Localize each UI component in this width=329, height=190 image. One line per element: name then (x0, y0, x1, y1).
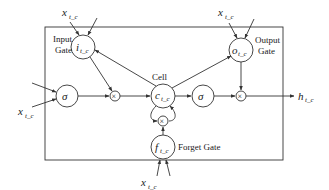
input-multiply-node: × (110, 91, 120, 101)
lstm-diagram: i t_c Input Gate o t_c Output Gate σ × c… (0, 0, 329, 190)
output-sigma-node: σ (192, 85, 214, 107)
svg-text:×: × (238, 92, 243, 101)
svg-text:t_c: t_c (305, 96, 314, 104)
input-gate-label: Input (53, 34, 72, 44)
input-gate-node: i t_c (71, 35, 95, 59)
svg-text:x: x (17, 105, 23, 117)
svg-text:σ: σ (198, 90, 204, 102)
cell-state-node: c t_c (151, 84, 175, 108)
svg-text:x: x (217, 6, 223, 18)
svg-text:i: i (76, 41, 79, 53)
output-gate-label-2: Gate (258, 46, 275, 56)
svg-text:t_c: t_c (161, 95, 170, 103)
output-multiply-node: × (236, 91, 246, 101)
svg-text:σ: σ (62, 90, 68, 102)
cell-label: Cell (152, 72, 167, 82)
svg-text:t_c: t_c (225, 13, 234, 21)
svg-text:c: c (155, 89, 160, 101)
input-gate-label-2: Gate (55, 45, 72, 55)
svg-text:t_c: t_c (80, 47, 89, 55)
svg-text:h: h (298, 90, 304, 102)
input-label-top-left: x t_c (61, 6, 78, 21)
input-label-left: x t_c (17, 105, 34, 120)
svg-text:t_c: t_c (148, 183, 157, 190)
input-sigma-node: σ (56, 85, 78, 107)
input-label-top-right: x t_c (217, 6, 234, 21)
output-gate-label: Output (255, 35, 281, 45)
output-gate-node: o t_c (229, 38, 253, 62)
output-label-h: h t_c (298, 90, 314, 104)
svg-text:t_c: t_c (238, 50, 247, 58)
svg-text:×: × (112, 92, 117, 101)
svg-text:×: × (160, 117, 165, 126)
forget-gate-label: Forget Gate (178, 142, 221, 152)
svg-text:t_c: t_c (25, 112, 34, 120)
svg-text:t_c: t_c (160, 147, 169, 155)
svg-text:x: x (140, 176, 146, 188)
forget-multiply-node: × (158, 116, 168, 126)
svg-text:x: x (61, 6, 67, 18)
forget-gate-node: f t_c (151, 135, 175, 159)
svg-text:t_c: t_c (69, 13, 78, 21)
input-label-bottom: x t_c (140, 176, 157, 190)
